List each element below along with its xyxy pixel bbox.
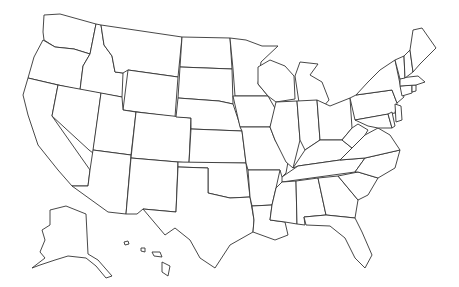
hawaii-island-oahu[interactable]	[141, 248, 145, 252]
state-north-dakota[interactable]	[180, 37, 232, 69]
state-florida[interactable]	[304, 215, 372, 268]
state-rhode-island[interactable]	[412, 85, 416, 92]
state-iowa[interactable]	[233, 96, 276, 127]
alaska-inset	[32, 206, 112, 278]
state-alaska[interactable]	[32, 206, 112, 278]
state-connecticut[interactable]	[400, 85, 412, 96]
state-new-mexico[interactable]	[126, 158, 178, 214]
state-colorado[interactable]	[131, 112, 191, 163]
state-maine[interactable]	[410, 28, 436, 72]
state-kansas[interactable]	[189, 129, 246, 163]
hawaii-island-maui[interactable]	[152, 252, 162, 257]
hawaii-inset	[124, 241, 170, 276]
hawaii-island-big-island[interactable]	[162, 262, 170, 276]
state-new-jersey[interactable]	[395, 104, 402, 122]
state-wyoming[interactable]	[123, 70, 178, 117]
us-outline-map	[0, 0, 459, 287]
map-container	[0, 0, 459, 287]
hawaii-island-kauai[interactable]	[124, 241, 129, 245]
